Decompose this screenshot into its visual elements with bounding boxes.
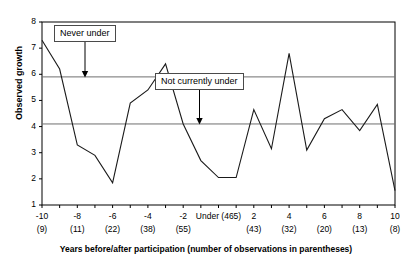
- x-tick-label: 4: [272, 211, 306, 221]
- y-tick-label: 5: [20, 94, 36, 104]
- y-tick-label: 8: [20, 16, 36, 26]
- callout-not-currently-under: Not currently under: [155, 73, 244, 90]
- x-tick-count: (32): [272, 224, 306, 234]
- x-tick-label: -10: [25, 211, 59, 221]
- y-tick-label: 7: [20, 42, 36, 52]
- x-tick-label: 2: [237, 211, 271, 221]
- x-axis-title: Years before/after participation (number…: [0, 244, 412, 254]
- x-tick-count: (38): [131, 224, 165, 234]
- x-tick-count: (9): [25, 224, 59, 234]
- x-tick-label: -6: [96, 211, 130, 221]
- x-axis-ticks-group: [42, 205, 395, 208]
- x-tick-count: (11): [60, 224, 94, 234]
- y-tick-label: 6: [20, 68, 36, 78]
- y-tick-label: 4: [20, 121, 36, 131]
- y-tick-label: 3: [20, 147, 36, 157]
- x-tick-label: 6: [307, 211, 341, 221]
- chart-figure: Observed growth 12345678 -10(9)-8(11)-6(…: [0, 0, 412, 263]
- y-tick-label: 2: [20, 173, 36, 183]
- x-tick-count: (8): [378, 224, 412, 234]
- x-tick-count: (20): [307, 224, 341, 234]
- x-tick-label: 10: [378, 211, 412, 221]
- x-tick-count: (22): [96, 224, 130, 234]
- x-tick-count: (55): [166, 224, 200, 234]
- x-tick-count: (43): [237, 224, 271, 234]
- x-tick-label: 8: [343, 211, 377, 221]
- x-tick-label: -4: [131, 211, 165, 221]
- y-tick-label: 1: [20, 199, 36, 209]
- x-tick-count: (13): [343, 224, 377, 234]
- callout-never-under: Never under: [54, 25, 116, 42]
- x-tick-label: -8: [60, 211, 94, 221]
